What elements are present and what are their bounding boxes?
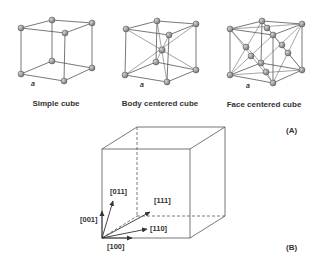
- face-centered-cube-diagram: a Face centered cube: [227, 18, 305, 109]
- face-center-right: [285, 50, 291, 56]
- face-center-front: [248, 53, 254, 59]
- lattice-param-label-bcc: a: [140, 81, 144, 88]
- crystal-structures-figure: a Simple cube a: [0, 0, 320, 260]
- body-centered-cube-diagram: a Body centered cube: [122, 18, 199, 108]
- face-center-left: [243, 44, 249, 50]
- face-center-top: [264, 25, 270, 31]
- simple-cube-atoms: [18, 17, 95, 84]
- arrow-111: [102, 212, 150, 238]
- direction-label-011: [011]: [110, 187, 128, 196]
- direction-label-111: [111]: [154, 196, 171, 205]
- panel-label-a: (A): [286, 126, 297, 135]
- caption-face-centered-cube: Face centered cube: [227, 100, 302, 109]
- body-center-atom: [159, 47, 165, 53]
- face-center-back: [279, 42, 285, 48]
- direction-label-110: [110]: [150, 224, 168, 233]
- panel-label-b: (B): [286, 243, 297, 252]
- simple-cube-edges: [21, 20, 92, 81]
- direction-cube-hidden-edges: [102, 127, 225, 238]
- direction-label-001: [001]: [80, 215, 98, 224]
- simple-cube-diagram: a Simple cube: [18, 17, 95, 108]
- direction-label-100: [100]: [107, 242, 125, 251]
- lattice-param-label-fcc: a: [246, 82, 250, 89]
- direction-vectors: [102, 201, 150, 238]
- caption-body-centered-cube: Body centered cube: [122, 99, 199, 108]
- caption-simple-cube: Simple cube: [32, 99, 80, 108]
- bcc-atoms: [122, 18, 199, 85]
- direction-cube-visible-edges: [102, 127, 225, 238]
- face-center-bottom: [263, 69, 269, 75]
- direction-cube-diagram: [001] [011] [111] [110] [100]: [80, 127, 225, 251]
- lattice-param-label-simple: a: [31, 80, 35, 87]
- arrow-110: [102, 229, 147, 238]
